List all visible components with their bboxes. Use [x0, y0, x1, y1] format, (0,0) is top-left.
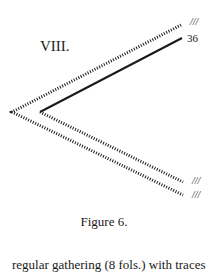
lower-outer-mark: /// [192, 189, 200, 200]
figure-caption: Figure 6. [0, 214, 208, 230]
body-text: regular gathering (8 fols.) with traces [12, 257, 205, 273]
upper-outer-mark: /// [190, 16, 198, 27]
section-label: VIII. [40, 38, 70, 55]
folio-number-label: 36 [187, 32, 198, 44]
lower-inner-mark: /// [192, 175, 200, 186]
inner-leaf-dotted-line [40, 112, 183, 182]
